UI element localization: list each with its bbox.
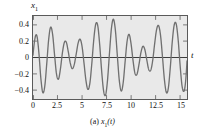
y-tick-label: −0.4 <box>2 87 29 95</box>
x-axis-label: t <box>191 50 194 60</box>
x-tick-label: 7.5 <box>102 101 112 110</box>
y-tick-label: 0.2 <box>2 38 29 46</box>
y-axis-label-subscript: 1 <box>35 6 38 12</box>
y-tick-label: −0.2 <box>2 71 29 79</box>
x-tick-label: 0 <box>31 101 35 110</box>
plot-area <box>32 15 188 100</box>
x-tick-label: 2.5 <box>52 101 62 110</box>
y-axis-label: x1 <box>31 0 38 14</box>
caption-argument: (t) <box>107 117 115 126</box>
x-axis-tick-labels: 0 2.5 5 7.5 10 12.5 15 <box>32 101 188 113</box>
x-tick-label: 15 <box>177 101 185 110</box>
x-tick-label: 5 <box>80 101 84 110</box>
y-tick-label: 0.4 <box>2 21 29 29</box>
caption-prefix: (a) <box>90 117 101 126</box>
y-axis-tick-labels: 0.4 0.2 0 −0.2 −0.4 <box>0 15 29 100</box>
x-axis-ticks-top <box>33 16 180 20</box>
figure-panel: x1 t 0.4 0.2 0 −0.2 −0.4 <box>0 0 205 136</box>
x-axis-ticks <box>33 95 180 99</box>
y-tick-label: 0 <box>2 54 29 62</box>
x-tick-label: 10 <box>127 101 135 110</box>
figure-caption: (a) x1(t) <box>0 117 205 128</box>
plot-svg <box>33 16 187 99</box>
x-tick-label: 12.5 <box>149 101 163 110</box>
